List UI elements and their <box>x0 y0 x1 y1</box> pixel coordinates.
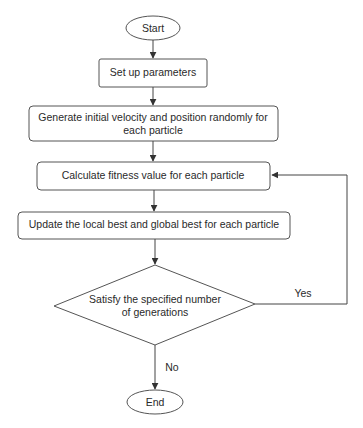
setup-node: Set up parameters <box>99 59 207 87</box>
update-label: Update the local best and global best fo… <box>29 218 280 230</box>
decision-node: Satisfy the specified number of generati… <box>54 265 255 345</box>
setup-label: Set up parameters <box>110 66 196 78</box>
calculate-node: Calculate fitness value for each particl… <box>37 162 270 190</box>
decision-label-line2: of generations <box>122 306 189 318</box>
start-node: Start <box>126 16 180 40</box>
yes-label: Yes <box>294 287 311 299</box>
flowchart-canvas: Start Set up parameters Generate initial… <box>0 0 363 428</box>
update-node: Update the local best and global best fo… <box>18 212 290 239</box>
end-node: End <box>127 390 183 414</box>
start-label: Start <box>142 22 164 34</box>
calculate-label: Calculate fitness value for each particl… <box>62 169 245 181</box>
end-label: End <box>146 396 165 408</box>
generate-label-line1: Generate initial velocity and position r… <box>38 111 268 123</box>
generate-node: Generate initial velocity and position r… <box>29 106 278 141</box>
no-label: No <box>165 361 179 373</box>
decision-label-line1: Satisfy the specified number <box>89 293 221 305</box>
generate-label-line2: each particle <box>123 124 183 136</box>
